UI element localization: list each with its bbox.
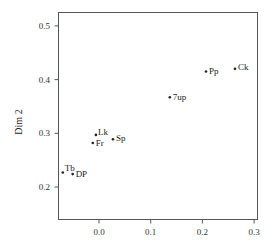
plot-frame (59, 13, 258, 220)
data-point-marker (205, 70, 208, 73)
data-point-label: Lk (98, 127, 108, 137)
data-point-marker (169, 96, 172, 99)
data-point-marker (62, 171, 65, 174)
data-point-label: Fr (96, 138, 104, 148)
y-tick-label: 0.4 (39, 75, 51, 85)
data-point-label: 7up (173, 92, 187, 102)
x-tick-label: 0.1 (145, 227, 156, 237)
data-point-label: Pp (209, 66, 219, 76)
data-point-marker (71, 173, 74, 176)
data-point-label: Tb (65, 163, 75, 173)
y-axis-title: Dim 2 (13, 109, 24, 134)
x-axis-ticks: 0.00.10.20.3 (93, 220, 260, 238)
y-tick-label: 0.5 (39, 21, 51, 31)
data-points: TbDPLkFrSp7upPpCk (62, 62, 249, 179)
data-point-marker (112, 138, 115, 141)
y-tick-label: 0.2 (39, 182, 50, 192)
data-point-marker (234, 68, 237, 71)
data-point-label: Sp (116, 133, 126, 143)
scatter-chart: 0.20.30.40.5 0.00.10.20.3 Dim 2 TbDPLkFr… (0, 0, 274, 243)
data-point-marker (95, 134, 98, 137)
x-tick-label: 0.0 (93, 227, 105, 237)
x-tick-label: 0.2 (197, 227, 208, 237)
y-tick-label: 0.3 (39, 128, 51, 138)
y-axis-ticks: 0.20.30.40.5 (39, 21, 59, 192)
data-point-marker (91, 142, 94, 145)
data-point-label: DP (76, 169, 88, 179)
data-point-label: Ck (238, 62, 249, 72)
x-tick-label: 0.3 (248, 227, 260, 237)
